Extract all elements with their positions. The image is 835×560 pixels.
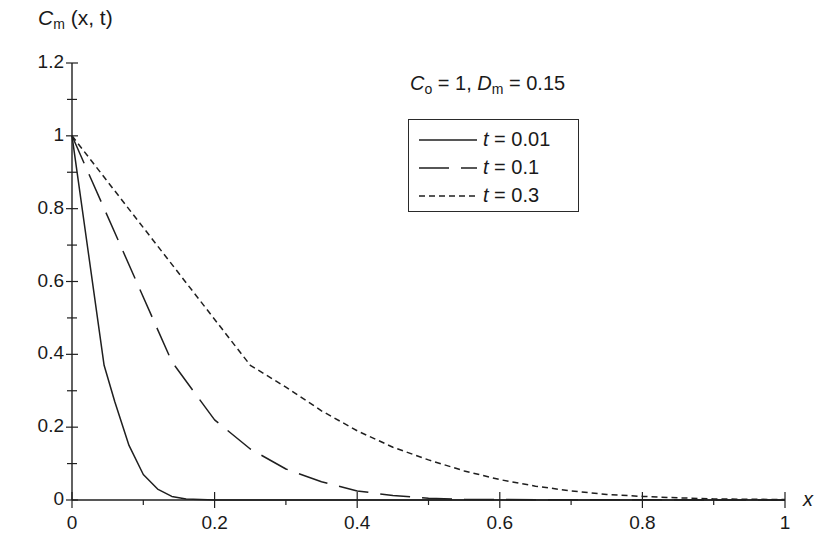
x-tick-label: 1: [760, 512, 810, 534]
dotted-line-swatch-icon: [417, 182, 481, 210]
legend-item-t03: t = 0.3: [417, 182, 577, 210]
x-tick-label: 0.8: [617, 512, 667, 534]
y-tick-label: 0.6: [24, 270, 64, 292]
x-tick-label: 0.6: [475, 512, 525, 534]
solid-line-swatch-icon: [417, 126, 481, 154]
y-tick-label: 0.8: [24, 197, 64, 219]
x-tick-label: 0.2: [190, 512, 240, 534]
y-tick-label: 1: [24, 124, 64, 146]
legend-item-t001: t = 0.01: [417, 126, 577, 154]
y-tick-label: 0.2: [24, 415, 64, 437]
legend: t = 0.01 t = 0.1 t = 0.3: [408, 119, 579, 212]
y-tick-label: 0: [24, 488, 64, 510]
x-axis-label: x: [803, 488, 813, 511]
x-tick-label: 0.4: [332, 512, 382, 534]
parameter-annotation: Co = 1, Dm = 0.15: [410, 72, 565, 97]
y-tick-label: 0.4: [24, 342, 64, 364]
x-tick-label: 0: [47, 512, 97, 534]
dashed-line-swatch-icon: [417, 154, 481, 182]
y-axis-label: Cm (x, t): [38, 6, 113, 32]
y-tick-label: 1.2: [24, 51, 64, 73]
legend-item-t01: t = 0.1: [417, 154, 577, 182]
